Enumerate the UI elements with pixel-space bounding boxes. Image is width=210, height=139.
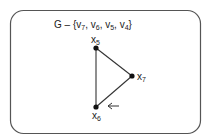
- label-x7: x7: [137, 71, 146, 83]
- nodes: [93, 45, 134, 109]
- edges: [96, 48, 132, 107]
- node-x5: [93, 45, 98, 50]
- node-x6: [93, 104, 98, 109]
- edge-x5-x7: [96, 48, 132, 76]
- label-x5: x5: [91, 34, 100, 46]
- title: G – {v7, v6, v5, v4}: [54, 19, 133, 31]
- diagram-canvas: G – {v7, v6, v5, v4} x5 x7 x6: [0, 0, 210, 139]
- left-arrow-icon: [108, 103, 119, 109]
- node-x7: [129, 73, 134, 78]
- label-x6: x6: [92, 110, 101, 122]
- edge-x7-x6: [96, 76, 132, 107]
